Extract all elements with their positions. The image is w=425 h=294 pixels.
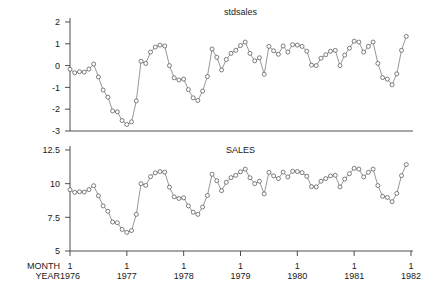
data-point-marker bbox=[276, 177, 280, 181]
chart-panel-sales: SALES12.5107.551197611977119781197911980… bbox=[42, 145, 421, 281]
data-point-marker bbox=[291, 43, 295, 47]
y-tick-label: 1 bbox=[55, 39, 60, 49]
data-point-marker bbox=[262, 72, 266, 76]
x-axis-row-names: MONTHYEAR bbox=[27, 261, 60, 281]
data-point-marker bbox=[300, 171, 304, 175]
data-point-marker bbox=[291, 169, 295, 173]
data-point-marker bbox=[390, 83, 394, 87]
data-point-marker bbox=[324, 177, 328, 181]
data-point-marker bbox=[319, 56, 323, 60]
y-tick-label: -1 bbox=[52, 83, 60, 93]
x-tick-label-month: 1 bbox=[408, 261, 413, 271]
data-point-marker bbox=[357, 167, 361, 171]
data-point-marker bbox=[310, 185, 314, 189]
data-point-marker bbox=[220, 68, 224, 72]
data-point-marker bbox=[234, 173, 238, 177]
x-tick-label-year: 1982 bbox=[401, 271, 421, 281]
series-line bbox=[70, 165, 406, 233]
data-point-marker bbox=[400, 174, 404, 178]
data-point-marker bbox=[120, 119, 124, 123]
data-point-marker bbox=[253, 182, 257, 186]
data-point-marker bbox=[362, 50, 366, 54]
data-point-marker bbox=[149, 50, 153, 54]
data-point-marker bbox=[139, 59, 143, 63]
data-point-marker bbox=[125, 230, 129, 234]
data-point-marker bbox=[167, 185, 171, 189]
x-tick-label-year: 1981 bbox=[344, 271, 364, 281]
data-point-marker bbox=[229, 176, 233, 180]
data-point-marker bbox=[239, 170, 243, 174]
panel-title-sales: SALES bbox=[226, 145, 255, 155]
data-point-marker bbox=[92, 184, 96, 188]
panel-title-stdsales: stdsales bbox=[224, 7, 258, 17]
data-point-marker bbox=[101, 88, 105, 92]
data-point-marker bbox=[381, 76, 385, 80]
data-point-marker bbox=[347, 46, 351, 50]
data-point-marker bbox=[111, 220, 115, 224]
data-point-marker bbox=[73, 71, 77, 75]
data-point-marker bbox=[300, 44, 304, 48]
data-point-marker bbox=[385, 195, 389, 199]
data-point-marker bbox=[68, 67, 72, 71]
data-point-marker bbox=[305, 174, 309, 178]
data-point-marker bbox=[257, 179, 261, 183]
x-axis-name-year: YEAR bbox=[35, 271, 60, 281]
x-tick-label-year: 1980 bbox=[287, 271, 307, 281]
data-point-marker bbox=[295, 43, 299, 47]
data-point-marker bbox=[314, 64, 318, 68]
x-tick-label-month: 1 bbox=[238, 261, 243, 271]
data-point-marker bbox=[328, 174, 332, 178]
data-point-marker bbox=[144, 61, 148, 65]
x-tick-label-year: 1976 bbox=[60, 271, 80, 281]
data-point-marker bbox=[281, 44, 285, 48]
data-point-marker bbox=[220, 189, 224, 193]
data-point-marker bbox=[267, 170, 271, 174]
data-point-marker bbox=[182, 77, 186, 81]
x-tick-label-year: 1977 bbox=[117, 271, 137, 281]
data-point-marker bbox=[295, 170, 299, 174]
data-point-marker bbox=[77, 190, 81, 194]
y-tick-label: 7.5 bbox=[47, 213, 60, 223]
data-point-marker bbox=[352, 166, 356, 170]
x-tick-label-year: 1979 bbox=[230, 271, 250, 281]
data-point-marker bbox=[120, 227, 124, 231]
data-point-marker bbox=[177, 196, 181, 200]
x-axis-name-month: MONTH bbox=[27, 261, 60, 271]
data-point-marker bbox=[134, 212, 138, 216]
data-point-marker bbox=[210, 47, 214, 51]
chart-figure: stdsales210-1-2-3SALES12.5107.5511976119… bbox=[0, 0, 425, 294]
data-point-marker bbox=[172, 76, 176, 80]
data-point-marker bbox=[253, 59, 257, 63]
data-point-marker bbox=[343, 53, 347, 57]
data-point-marker bbox=[314, 185, 318, 189]
data-point-marker bbox=[400, 48, 404, 52]
data-point-marker bbox=[139, 182, 143, 186]
data-point-marker bbox=[177, 78, 181, 82]
data-point-marker bbox=[286, 50, 290, 54]
data-point-marker bbox=[305, 49, 309, 53]
data-point-marker bbox=[201, 205, 205, 209]
data-point-marker bbox=[234, 48, 238, 52]
data-point-marker bbox=[281, 170, 285, 174]
data-point-marker bbox=[172, 195, 176, 199]
data-point-marker bbox=[201, 89, 205, 93]
data-point-marker bbox=[196, 98, 200, 102]
data-point-marker bbox=[404, 34, 408, 38]
y-tick-label: -2 bbox=[52, 104, 60, 114]
series-line bbox=[70, 36, 406, 124]
data-point-marker bbox=[130, 229, 134, 233]
chart-canvas: stdsales210-1-2-3SALES12.5107.5511976119… bbox=[0, 0, 425, 294]
data-point-marker bbox=[215, 179, 219, 183]
data-point-marker bbox=[111, 109, 115, 113]
data-point-marker bbox=[257, 56, 261, 60]
data-point-marker bbox=[130, 120, 134, 124]
data-point-marker bbox=[395, 191, 399, 195]
data-point-marker bbox=[106, 95, 110, 99]
data-point-marker bbox=[371, 40, 375, 44]
data-point-marker bbox=[210, 172, 214, 176]
x-tick-label-year: 1978 bbox=[174, 271, 194, 281]
data-point-marker bbox=[376, 61, 380, 65]
data-point-marker bbox=[376, 184, 380, 188]
data-point-marker bbox=[163, 44, 167, 48]
data-point-marker bbox=[248, 176, 252, 180]
